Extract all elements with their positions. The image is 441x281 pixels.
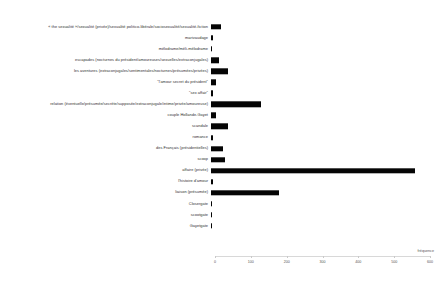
x-tick xyxy=(394,256,395,258)
category-label: scandale xyxy=(0,124,211,129)
bar-cell xyxy=(211,22,441,33)
bar xyxy=(211,168,415,173)
bar-cell xyxy=(211,209,441,220)
bar xyxy=(211,68,228,73)
x-tick-label: 100 xyxy=(248,260,254,264)
bar-cell xyxy=(211,88,441,99)
x-tick-label: 400 xyxy=(355,260,361,264)
category-label: liaison (présumée) xyxy=(0,190,211,195)
category-label: mélodrame/méli-mélodrame xyxy=(0,47,211,52)
x-tick xyxy=(323,256,324,258)
bar-row: l'histoire d'amour xyxy=(0,176,441,187)
category-label: marivaudage xyxy=(0,36,211,41)
bar-row: Closergate xyxy=(0,198,441,209)
bar xyxy=(211,57,219,62)
category-label: "l'amour secret du président" xyxy=(0,80,211,85)
bar-cell xyxy=(211,55,441,66)
category-label: l'histoire d'amour xyxy=(0,179,211,184)
bar xyxy=(211,24,221,29)
bar-row: scoop xyxy=(0,154,441,165)
bar-cell xyxy=(211,121,441,132)
x-tick-label: 500 xyxy=(391,260,397,264)
bar xyxy=(211,35,213,40)
bar xyxy=(211,46,212,51)
bar xyxy=(211,146,223,151)
bar-row: couple Hollande-Gayet xyxy=(0,110,441,121)
category-label: scootgate xyxy=(0,213,211,218)
x-tick-label: 600 xyxy=(427,260,433,264)
bar-row: "sex affair" xyxy=(0,88,441,99)
bar xyxy=(211,135,213,140)
category-label: « the sexualité »/sexualité (privée)/sex… xyxy=(0,25,211,30)
bar-row: affaire (privée) xyxy=(0,165,441,176)
x-tick xyxy=(430,256,431,258)
bar-chart: « the sexualité »/sexualité (privée)/sex… xyxy=(0,0,441,281)
bar-row: scandale xyxy=(0,121,441,132)
bar xyxy=(211,102,261,107)
bar-row: scootgate xyxy=(0,209,441,220)
bar xyxy=(211,190,279,195)
bar-row: des Français (présidentielles) xyxy=(0,143,441,154)
category-label: romance xyxy=(0,135,211,140)
bar xyxy=(211,157,225,162)
bar-row: relation (éventuelle/présumée/secrète/su… xyxy=(0,99,441,110)
bar-cell xyxy=(211,66,441,77)
bar-row: mélodrame/méli-mélodrame xyxy=(0,44,441,55)
bar-cell xyxy=(211,165,441,176)
bar-row: Gayetgate xyxy=(0,220,441,231)
bar-cell xyxy=(211,220,441,231)
bar-cell xyxy=(211,44,441,55)
x-tick xyxy=(358,256,359,258)
bar xyxy=(211,113,216,118)
bar-cell xyxy=(211,33,441,44)
bar-row: "l'amour secret du président" xyxy=(0,77,441,88)
bar xyxy=(211,212,212,217)
x-tick xyxy=(251,256,252,258)
category-label: scoop xyxy=(0,157,211,162)
bar xyxy=(211,201,212,206)
category-label: les aventures (extraconjugales/sentiment… xyxy=(0,69,211,74)
bar-cell xyxy=(211,154,441,165)
x-tick-label: 300 xyxy=(320,260,326,264)
bar xyxy=(211,91,213,96)
bar xyxy=(211,124,228,129)
bar-cell xyxy=(211,99,441,110)
bar-cell xyxy=(211,143,441,154)
bar-cell xyxy=(211,110,441,121)
category-label: Closergate xyxy=(0,202,211,207)
bar-row: liaison (présumée) xyxy=(0,187,441,198)
bar-row: marivaudage xyxy=(0,33,441,44)
bar-cell xyxy=(211,176,441,187)
bar xyxy=(211,179,213,184)
category-label: des Français (présidentielles) xyxy=(0,146,211,151)
category-label: affaire (privée) xyxy=(0,168,211,173)
bar-cell xyxy=(211,198,441,209)
bar xyxy=(211,223,212,228)
category-label: couple Hollande-Gayet xyxy=(0,113,211,118)
bar-row: les aventures (extraconjugales/sentiment… xyxy=(0,66,441,77)
category-label: "sex affair" xyxy=(0,91,211,96)
category-label: escapades (nocturnes du président/amoure… xyxy=(0,58,211,63)
x-axis-title: fréquence xyxy=(418,249,434,253)
bar-row: « the sexualité »/sexualité (privée)/sex… xyxy=(0,22,441,33)
bar xyxy=(211,80,216,85)
x-tick-label: 0 xyxy=(214,260,216,264)
category-label: relation (éventuelle/présumée/secrète/su… xyxy=(0,102,211,107)
category-label: Gayetgate xyxy=(0,224,211,229)
bar-cell xyxy=(211,132,441,143)
bar-cell xyxy=(211,77,441,88)
x-tick xyxy=(287,256,288,258)
bar-row: escapades (nocturnes du président/amoure… xyxy=(0,55,441,66)
bar-row: romance xyxy=(0,132,441,143)
x-tick xyxy=(215,256,216,258)
bar-cell xyxy=(211,187,441,198)
x-tick-label: 200 xyxy=(284,260,290,264)
